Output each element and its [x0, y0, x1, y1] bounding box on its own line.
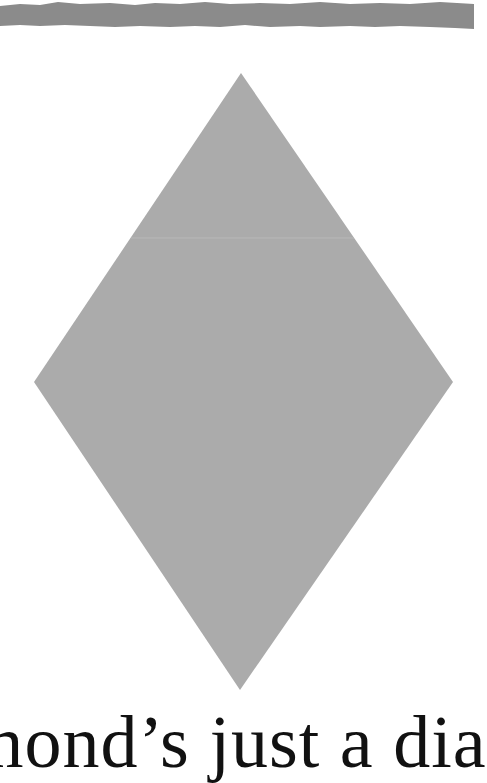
diamond-shape — [0, 0, 474, 700]
caption-text: mond’s just a dia — [0, 702, 487, 782]
diamond-fill — [34, 73, 453, 690]
